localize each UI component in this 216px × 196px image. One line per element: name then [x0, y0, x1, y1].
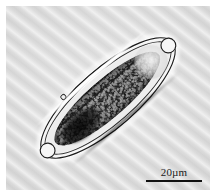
micrograph-image: 20µm	[6, 6, 210, 190]
micrograph-figure: 20µm	[0, 0, 216, 196]
